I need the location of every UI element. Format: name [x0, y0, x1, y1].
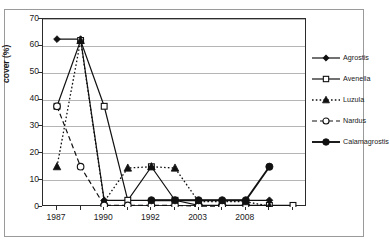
- y-axis-tick-label: 0: [13, 202, 39, 210]
- data-point-marker: [323, 76, 328, 81]
- x-axis-tick-label: 2008: [225, 213, 265, 222]
- plot-area: [42, 18, 306, 206]
- legend-item-agrostis[interactable]: Agrostis: [311, 51, 369, 72]
- x-axis-tick-label: 1990: [83, 213, 123, 222]
- series-nardus: [54, 103, 226, 207]
- legend-marker-icon: [311, 72, 341, 86]
- legend-marker-icon: [311, 114, 341, 128]
- data-point-marker: [242, 197, 249, 204]
- series-layer: [43, 19, 307, 207]
- y-axis-tick-mark: [38, 206, 42, 207]
- legend-item-nardus[interactable]: Nardus: [311, 114, 369, 135]
- series-agrostis: [54, 36, 273, 204]
- legend-item-luzula[interactable]: Luzula: [311, 93, 369, 114]
- legend-marker-icon: [311, 93, 341, 107]
- data-point-marker: [54, 36, 61, 43]
- data-point-marker: [323, 118, 329, 124]
- legend-label: Avenella: [343, 74, 370, 83]
- legend-label: Luzula: [343, 95, 364, 104]
- y-axis-tick-label: 60: [13, 40, 39, 48]
- legend-item-calamagrostis[interactable]: Calamagrostis: [311, 135, 369, 156]
- y-axis-tick-label: 20: [13, 148, 39, 156]
- data-point-marker: [219, 197, 226, 204]
- chart-legend: AgrostisAvenellaLuzulaNardusCalamagrosti…: [311, 51, 369, 156]
- legend-label: Agrostis: [343, 53, 369, 62]
- data-point-marker: [290, 202, 296, 207]
- legend-label: Nardus: [343, 116, 366, 125]
- y-axis-title: cover (%): [1, 45, 11, 83]
- data-point-marker: [323, 55, 329, 61]
- series-line: [151, 167, 269, 201]
- data-point-marker: [323, 139, 330, 146]
- data-point-marker: [101, 103, 107, 109]
- legend-marker-icon: [311, 51, 341, 65]
- data-point-marker: [171, 197, 178, 204]
- legend-marker-icon: [311, 135, 341, 149]
- data-point-marker: [148, 197, 155, 204]
- data-point-marker: [195, 197, 202, 204]
- x-axis-tick-label: 1992: [130, 213, 170, 222]
- y-axis-tick-label: 10: [13, 175, 39, 183]
- y-axis-tick-label: 40: [13, 94, 39, 102]
- x-axis-tick-label: 1987: [36, 213, 76, 222]
- legend-item-avenella[interactable]: Avenella: [311, 72, 369, 93]
- data-point-marker: [125, 202, 132, 207]
- data-point-marker: [101, 202, 108, 207]
- data-point-marker: [53, 163, 61, 170]
- data-point-marker: [54, 103, 61, 110]
- data-point-marker: [77, 163, 84, 170]
- y-axis-tick-label: 70: [13, 14, 39, 22]
- data-point-marker: [266, 163, 273, 170]
- legend-label: Calamagrostis: [343, 137, 389, 146]
- series-luzula: [53, 36, 273, 207]
- x-axis-tick-label: 2003: [178, 213, 218, 222]
- y-axis-tick-label: 30: [13, 121, 39, 129]
- y-axis-tick-label: 50: [13, 67, 39, 75]
- series-calamagrostis: [148, 163, 273, 204]
- series-line: [57, 106, 222, 206]
